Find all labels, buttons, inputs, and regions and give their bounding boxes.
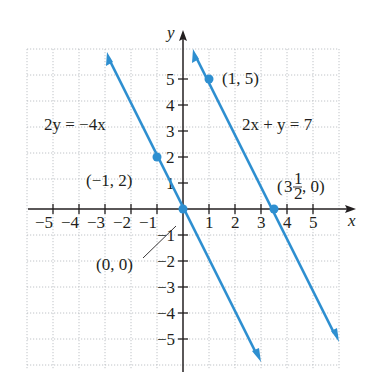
svg-text:−2: −2 <box>113 213 131 232</box>
svg-text:1: 1 <box>205 213 214 232</box>
svg-text:5: 5 <box>166 70 175 89</box>
point-label-3half-0: ( 3 1 2 , 0) <box>277 169 325 203</box>
svg-text:−5: −5 <box>157 330 175 349</box>
svg-text:−4: −4 <box>61 213 80 232</box>
point-3half-0 <box>270 205 279 214</box>
svg-text:−3: −3 <box>87 213 105 232</box>
svg-text:4: 4 <box>283 213 292 232</box>
coordinate-graph: x y −5 −4 −3 −2 −1 1 2 3 4 5 <box>0 0 374 387</box>
equation-label-line2: 2x + y = 7 <box>242 115 313 134</box>
point-1-5 <box>205 75 214 84</box>
svg-text:−2: −2 <box>157 252 175 271</box>
point-label-origin: (0, 0) <box>96 255 133 274</box>
svg-text:3: 3 <box>284 177 293 196</box>
point-label-1-5: (1, 5) <box>222 69 259 88</box>
svg-text:3: 3 <box>166 122 175 141</box>
svg-text:5: 5 <box>309 213 318 232</box>
svg-text:, 0): , 0) <box>302 177 325 196</box>
svg-text:−3: −3 <box>157 278 175 297</box>
y-axis-label: y <box>165 23 175 42</box>
point-neg1-2 <box>153 153 162 162</box>
svg-text:3: 3 <box>257 213 266 232</box>
svg-text:−5: −5 <box>35 213 53 232</box>
svg-text:(: ( <box>277 177 283 196</box>
point-origin <box>179 205 188 214</box>
svg-text:−4: −4 <box>157 304 176 323</box>
equation-label-line1: 2y = −4x <box>44 115 106 134</box>
svg-text:2: 2 <box>166 148 175 167</box>
svg-text:−1: −1 <box>139 213 157 232</box>
x-axis-label: x <box>347 211 356 230</box>
svg-text:4: 4 <box>166 96 175 115</box>
point-label-neg1-2: (−1, 2) <box>86 171 132 190</box>
svg-text:2: 2 <box>231 213 240 232</box>
